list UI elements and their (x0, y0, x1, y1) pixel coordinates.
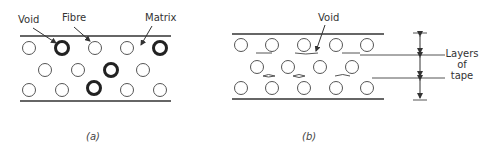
composite-diagram (0, 0, 481, 156)
fibre (330, 82, 343, 95)
fibre (346, 61, 359, 74)
panel-b (232, 25, 445, 100)
fibre (137, 64, 150, 77)
fibre (121, 42, 134, 55)
fibre (23, 42, 36, 55)
panel-a (20, 26, 171, 101)
fibre (298, 82, 311, 95)
void-pointer (316, 25, 325, 51)
fibre-label: Fibre (62, 12, 86, 23)
fibre (154, 84, 167, 97)
layers-line1: Layers (444, 48, 480, 59)
fibre (361, 39, 374, 52)
fibre (235, 82, 248, 95)
fibre-pointer (74, 27, 90, 41)
void (105, 64, 118, 77)
fibre (314, 61, 327, 74)
fibre (298, 39, 311, 52)
fibre (330, 39, 343, 52)
layers-line3: tape (444, 70, 480, 81)
layers-of-tape-label: Layers of tape (444, 48, 480, 81)
fibre (251, 61, 264, 74)
fibre (89, 42, 102, 55)
fibre (235, 39, 248, 52)
void (154, 42, 167, 55)
fibre (361, 82, 374, 95)
fibre (282, 61, 295, 74)
fibre (72, 64, 85, 77)
void-sliver (335, 75, 350, 77)
fibre (266, 82, 279, 95)
fibre (39, 64, 52, 77)
void-label: Void (18, 14, 39, 25)
void (56, 42, 69, 55)
fibre (121, 84, 134, 97)
void (88, 82, 101, 95)
matrix-label: Matrix (145, 12, 176, 23)
void-sliver (295, 53, 318, 54)
caption-a: (a) (86, 131, 100, 142)
fibre (266, 39, 279, 52)
void-sliver (293, 75, 305, 78)
void-label-b: Void (318, 12, 339, 23)
fibre (56, 84, 69, 97)
layers-line2: of (444, 59, 480, 70)
void-sliver (263, 75, 275, 78)
caption-b: (b) (302, 131, 316, 142)
fibre (23, 84, 36, 97)
